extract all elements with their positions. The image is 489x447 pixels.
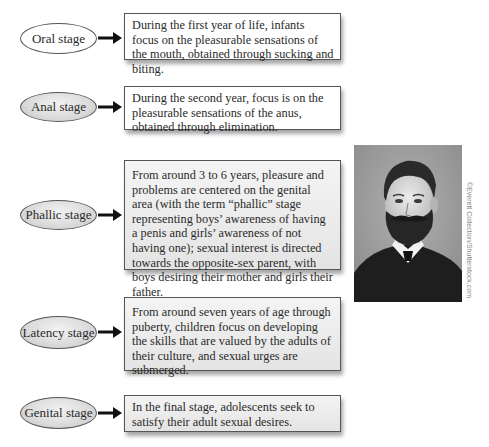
arrow-right-icon	[98, 407, 122, 419]
arrow-right-icon	[98, 32, 122, 44]
stage-label: Genital stage	[24, 405, 92, 421]
stage-description: From around seven years of age through p…	[132, 305, 331, 377]
stage-description-box: From around seven years of age through p…	[124, 297, 341, 371]
arrow-right-icon	[98, 326, 122, 338]
stage-description-box: During the second year, focus is on the …	[124, 86, 341, 130]
arrow-right-icon	[98, 101, 122, 113]
stage-label: Latency stage	[23, 325, 95, 341]
stage-description-box: During the first year of life, infants f…	[124, 13, 341, 60]
stage-description-box: In the final stage, adolescents seek to …	[124, 395, 341, 432]
stage-description: During the first year of life, infants f…	[132, 18, 334, 76]
stage-description: During the second year, focus is on the …	[132, 91, 323, 134]
portrait-illustration	[354, 145, 462, 302]
stage-description-box: From around 3 to 6 years, pleasure and p…	[124, 160, 341, 270]
stage-label: Phallic stage	[25, 207, 91, 223]
stage-ellipse-latency: Latency stage	[20, 316, 97, 349]
stage-description: From around 3 to 6 years, pleasure and p…	[132, 168, 333, 299]
portrait-photo	[354, 145, 462, 302]
stage-label: Oral stage	[32, 31, 85, 47]
stage-ellipse-oral: Oral stage	[20, 23, 97, 54]
photo-credit: ©Everett Collection/Shutterstock.com	[466, 182, 473, 298]
arrow-right-icon	[98, 209, 122, 221]
stage-label: Anal stage	[31, 99, 86, 115]
stage-ellipse-phallic: Phallic stage	[20, 200, 97, 230]
stage-ellipse-anal: Anal stage	[20, 92, 97, 122]
stage-ellipse-genital: Genital stage	[20, 397, 97, 429]
stage-description: In the final stage, adolescents seek to …	[132, 400, 315, 429]
